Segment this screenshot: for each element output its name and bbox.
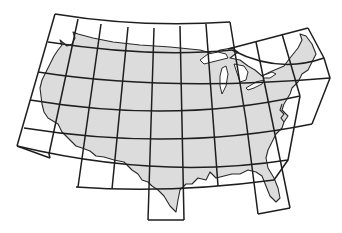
map-canvas	[0, 0, 342, 233]
grid-lat-fl	[258, 208, 290, 214]
grid-lat-0	[55, 14, 230, 24]
grid-lat-ne-top	[228, 28, 308, 49]
index-map	[0, 0, 342, 233]
us-landmass	[40, 32, 316, 212]
